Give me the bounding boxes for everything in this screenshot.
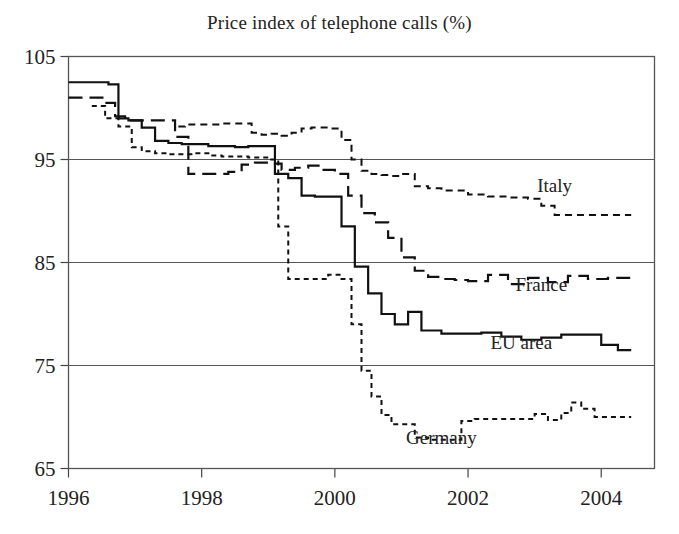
x-tick-label: 2002 <box>447 486 489 510</box>
y-tick-label: 105 <box>24 45 56 69</box>
series-label-germany: Germany <box>406 427 477 448</box>
series-line-eu-area <box>69 82 632 350</box>
y-gridlines <box>61 57 655 469</box>
y-tick-label: 65 <box>35 457 56 481</box>
series-line-italy <box>178 123 631 215</box>
series-line-germany <box>92 106 631 440</box>
y-tick-label: 85 <box>35 251 56 275</box>
chart-figure: Price index of telephone calls (%) 10595… <box>0 0 679 534</box>
y-axis-tick-labels: 10595857565 <box>24 45 56 481</box>
y-tick-label: 75 <box>35 354 56 378</box>
series-lines <box>69 82 632 439</box>
x-tick-label: 1996 <box>48 486 90 510</box>
x-axis-tick-labels: 19961998200020022004 <box>48 486 623 510</box>
x-tickmarks <box>69 469 602 478</box>
series-inline-labels: ItalyFranceEU areaGermany <box>406 175 572 447</box>
y-tick-label: 95 <box>35 148 56 172</box>
series-label-france: France <box>515 274 567 295</box>
x-tick-label: 2004 <box>580 486 623 510</box>
series-label-italy: Italy <box>537 175 572 196</box>
series-label-eu-area: EU area <box>490 332 552 353</box>
x-tick-label: 1998 <box>181 486 223 510</box>
chart-plot-area: 10595857565 19961998200020022004 ItalyFr… <box>0 0 679 534</box>
x-tick-label: 2000 <box>314 486 356 510</box>
